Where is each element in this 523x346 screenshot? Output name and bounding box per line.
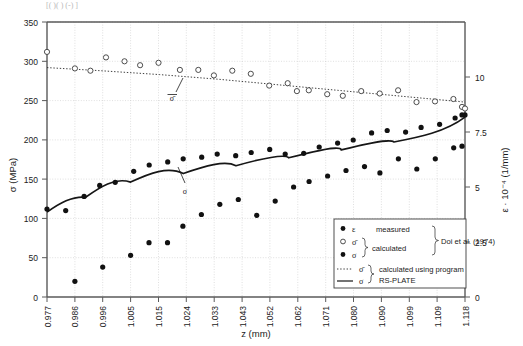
x-tick-label: 0.996	[98, 306, 108, 328]
legend-label-measured: measured	[376, 225, 410, 234]
annotation-sigma-bar-label: σ̄	[170, 94, 176, 103]
x-tick-label: 1.043	[238, 306, 248, 328]
chart-figure: [( )( ) (-) ]	[0, 0, 523, 346]
x-tick-label: 1.005	[126, 306, 136, 328]
y2-axis-title: ε · 10⁻⁴ (1/mm)	[499, 147, 510, 212]
y2-tick-label: 5	[475, 183, 480, 193]
sigma-rsplate-solid-line	[47, 117, 465, 212]
x-tick-label: 1.015	[154, 306, 164, 328]
x-tick-label: 1.071	[321, 306, 331, 328]
y-axis-title: σ (MPa)	[7, 158, 18, 192]
y-tick-label: 50	[29, 253, 39, 263]
y-axis-left-ticks: 350 300 250 200 150 100 50 0	[24, 18, 47, 303]
legend-label-program-line2: RS-PLATE	[379, 276, 416, 285]
x-tick-label: 0.977	[43, 306, 53, 328]
legend-symbol-epsilon: ε	[352, 225, 356, 234]
y-tick-label: 250	[24, 96, 38, 106]
annotation-sigma-bar: σ̄	[168, 78, 184, 103]
chart-legend: ε measured σ̄ σ calculated Doi et al. (1…	[334, 219, 495, 288]
y-tick-label: 0	[33, 293, 38, 303]
y-axis-right-ticks: 0 2.5 5 7.5 10	[465, 73, 487, 303]
sigma-bar-rsplate-dotted-line	[47, 68, 465, 103]
legend-symbol-sigma: σ	[352, 251, 357, 260]
x-tick-label: 1.109	[433, 306, 443, 328]
x-tick-label: 1.062	[293, 306, 303, 328]
legend-symbol-sigma-line: σ	[359, 277, 364, 286]
x-tick-label: 1.033	[210, 306, 220, 328]
cropped-header-fragment: [( )( ) (-) ]	[46, 1, 78, 10]
x-tick-label: 1.099	[405, 306, 415, 328]
y-tick-label: 100	[24, 214, 38, 224]
x-tick-label: 1.024	[182, 306, 192, 328]
legend-symbol-epsilon-marker	[341, 226, 346, 231]
x-axis-title: z (mm)	[241, 328, 271, 339]
x-axis-ticks: 0.977 0.986 0.996 1.005 1.015 1.024 1.03…	[43, 297, 471, 327]
legend-symbol-sigmabar-marker	[341, 239, 346, 244]
y-tick-label: 300	[24, 57, 38, 67]
x-tick-label: 1.052	[265, 306, 275, 328]
series-open-circles	[44, 49, 467, 111]
y-tick-label: 350	[24, 18, 38, 28]
y-tick-label: 200	[24, 135, 38, 145]
legend-symbol-sigma-marker	[341, 252, 346, 257]
y2-tick-label: 7.5	[475, 128, 487, 138]
legend-label-calculated: calculated	[372, 244, 406, 253]
y2-tick-label: 10	[475, 73, 485, 83]
series-filled-circles-sigma	[44, 112, 467, 213]
y-tick-label: 150	[24, 175, 38, 185]
annotation-sigma-label: σ	[183, 187, 188, 196]
legend-label-source: Doi et al. (1974)	[441, 237, 495, 246]
y2-tick-label: 0	[475, 293, 480, 303]
x-tick-label: 1.118	[461, 306, 471, 327]
x-tick-label: 1.090	[377, 306, 387, 328]
legend-label-program-line1: calculated using program	[379, 265, 464, 274]
x-tick-label: 1.080	[349, 306, 359, 328]
x-tick-label: 0.986	[70, 306, 80, 328]
